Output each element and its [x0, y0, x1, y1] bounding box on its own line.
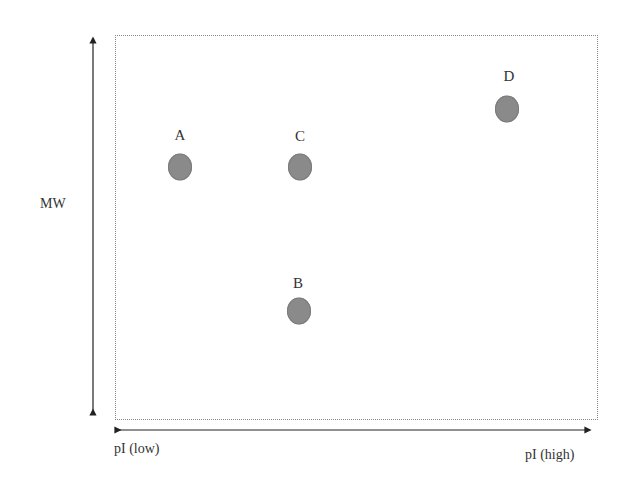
data-point-b [287, 298, 311, 325]
data-point-label-b: B [293, 275, 303, 292]
plot-area [115, 35, 598, 420]
data-point-a [168, 154, 192, 181]
data-point-label-d: D [504, 68, 515, 85]
data-point-d [495, 96, 519, 123]
x-axis-label-high: pI (high) [525, 447, 574, 463]
data-point-label-c: C [295, 128, 305, 145]
y-axis-label: MW [40, 196, 66, 212]
data-point-c [288, 154, 312, 181]
data-point-label-a: A [175, 127, 186, 144]
x-axis-label-low: pI (low) [114, 441, 160, 457]
